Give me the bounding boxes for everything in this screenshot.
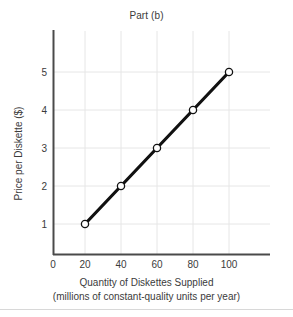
- x-tick-label-40: 40: [106, 259, 136, 270]
- data-point-20-1: [81, 220, 88, 227]
- x-axis-label: Quantity of Diskettes Supplied (millions…: [0, 276, 293, 304]
- x-tick-label-20: 20: [70, 259, 100, 270]
- y-axis-label: Price per Diskette ($): [13, 74, 24, 234]
- data-point-40-2: [117, 182, 124, 189]
- y-tick-label-4: 4: [31, 105, 47, 116]
- y-tick-label-3: 3: [31, 143, 47, 154]
- data-point-100-5: [225, 68, 232, 75]
- chart-figure: Part (b): [0, 0, 293, 317]
- x-axis-label-line2: (millions of constant-quality units per …: [0, 290, 293, 304]
- x-tick-label-0: 0: [38, 259, 68, 270]
- data-point-80-4: [189, 106, 196, 113]
- data-point-60-3: [153, 144, 160, 151]
- bottom-divider: [0, 309, 293, 310]
- y-tick-label-2: 2: [31, 181, 47, 192]
- y-tick-label-5: 5: [31, 67, 47, 78]
- horizontal-gridlines: [53, 72, 270, 224]
- vertical-gridlines: [85, 31, 229, 254]
- x-axis-label-line1: Quantity of Diskettes Supplied: [0, 276, 293, 290]
- x-tick-label-100: 100: [214, 259, 244, 270]
- x-tick-label-60: 60: [142, 259, 172, 270]
- y-tick-label-1: 1: [31, 219, 47, 230]
- x-tick-label-80: 80: [178, 259, 208, 270]
